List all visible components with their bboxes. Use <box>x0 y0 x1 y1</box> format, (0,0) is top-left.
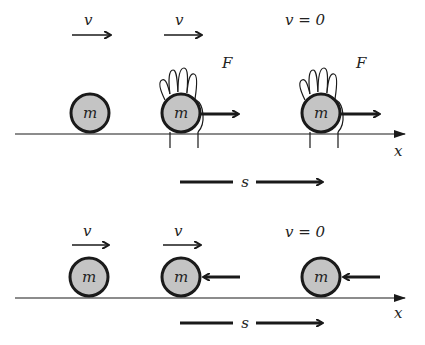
work-energy-diagram: v v v = 0 x m m F <box>0 0 425 345</box>
velocity-zero-label: v = 0 <box>285 223 326 241</box>
displacement-label: s <box>241 314 249 332</box>
mass-label: m <box>83 104 97 122</box>
force-label: F <box>221 54 233 72</box>
top-panel: v v v = 0 x m m F <box>15 11 405 191</box>
mass-ball-2: m <box>162 94 200 132</box>
force-arrow-2: F <box>341 54 379 114</box>
mass-ball-5: m <box>162 258 200 296</box>
velocity-arrow-4: v <box>163 222 200 245</box>
force-arrow-1: F <box>201 54 238 114</box>
velocity-label: v <box>83 222 92 240</box>
mass-ball-6: m <box>302 258 340 296</box>
velocity-zero-label: v = 0 <box>285 11 326 29</box>
displacement-label: s <box>241 173 249 191</box>
displacement-arrow-bottom: s <box>180 314 322 332</box>
displacement-arrow-top: s <box>180 173 322 191</box>
mass-label: m <box>174 268 188 286</box>
velocity-arrow-3: v <box>72 222 108 245</box>
velocity-label: v <box>84 11 93 29</box>
mass-label: m <box>174 104 188 122</box>
bottom-panel: v v v = 0 x m m m s <box>15 222 405 332</box>
velocity-label: v <box>175 11 184 29</box>
mass-ball-3: m <box>302 94 340 132</box>
velocity-arrow-1: v <box>72 11 110 35</box>
force-label: F <box>355 54 367 72</box>
mass-ball-4: m <box>70 258 108 296</box>
mass-label: m <box>82 268 96 286</box>
mass-label: m <box>314 104 328 122</box>
mass-ball-1: m <box>71 94 109 132</box>
x-axis-label: x <box>394 304 403 322</box>
velocity-arrow-2: v <box>164 11 201 35</box>
mass-label: m <box>314 268 328 286</box>
x-axis-label: x <box>394 142 403 160</box>
velocity-label: v <box>174 222 183 240</box>
